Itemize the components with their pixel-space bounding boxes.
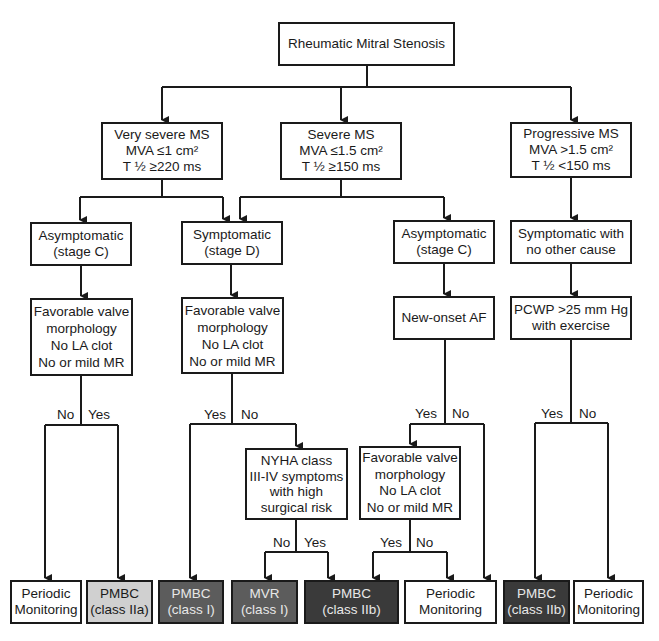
outcome-line: Monitoring xyxy=(14,602,77,618)
node-line: Asymptomatic xyxy=(402,226,487,242)
branch-label-yes: Yes xyxy=(415,407,437,421)
node-line: NYHA class xyxy=(261,453,332,469)
node-line: Favorable valve xyxy=(185,302,280,319)
node-line: surgical risk xyxy=(261,500,332,516)
outcome-line: (class IIb) xyxy=(322,602,381,618)
node-asymptomatic-stage-c-left: Asymptomatic (stage C) xyxy=(30,222,132,266)
branch-label-no: No xyxy=(579,407,596,421)
outcome-line: (class I) xyxy=(167,602,214,618)
node-line: Severe MS xyxy=(308,127,375,143)
node-line: No LA clot xyxy=(202,336,264,353)
outcome-line: Periodic xyxy=(584,586,633,602)
node-line: Asymptomatic xyxy=(39,228,124,244)
node-line: T ½ ≥150 ms xyxy=(302,159,380,175)
node-line: Progressive MS xyxy=(523,126,618,142)
node-favorable-valve-middle: Favorable valve morphology No LA clot No… xyxy=(181,297,284,374)
outcome-line: PMBC xyxy=(332,586,371,602)
node-line: PCWP >25 mm Hg xyxy=(514,302,628,318)
branch-label-yes: Yes xyxy=(304,536,326,550)
node-line: with high xyxy=(270,484,323,500)
node-line: with exercise xyxy=(532,318,610,334)
outcome-periodic-monitoring: Periodic Monitoring xyxy=(10,580,82,624)
branch-label-yes: Yes xyxy=(204,408,226,422)
node-line: No or mild MR xyxy=(189,353,275,370)
node-line: Favorable valve xyxy=(362,450,457,467)
outcome-periodic-monitoring: Periodic Monitoring xyxy=(404,580,497,624)
root-title: Rheumatic Mitral Stenosis xyxy=(288,36,445,52)
node-line: No or mild MR xyxy=(38,354,124,371)
node-symptomatic-no-other-cause: Symptomatic with no other cause xyxy=(510,220,632,264)
branch-label-yes: Yes xyxy=(88,408,110,422)
outcome-line: PMBC xyxy=(517,586,556,602)
branch-label-no: No xyxy=(241,408,258,422)
node-asymptomatic-stage-c-right: Asymptomatic (stage C) xyxy=(393,220,495,264)
outcome-pmbc-class-iib: PMBC (class IIb) xyxy=(503,580,570,624)
outcome-line: Periodic xyxy=(22,586,71,602)
node-line: T ½ <150 ms xyxy=(532,158,611,174)
outcome-line: Periodic xyxy=(426,586,475,602)
node-line: (stage C) xyxy=(416,242,472,258)
branch-label-no: No xyxy=(57,408,74,422)
outcome-line: PMBC xyxy=(100,586,139,602)
node-line: Favorable valve xyxy=(34,303,129,320)
branch-label-yes: Yes xyxy=(541,407,563,421)
node-line: T ½ ≥220 ms xyxy=(123,159,201,175)
outcome-pmbc-class-iia: PMBC (class IIa) xyxy=(86,580,153,624)
node-severe-ms: Severe MS MVA ≤1.5 cm² T ½ ≥150 ms xyxy=(280,122,402,180)
outcome-line: (class I) xyxy=(241,602,288,618)
node-line: MVA >1.5 cm² xyxy=(529,142,613,158)
node-progressive-ms: Progressive MS MVA >1.5 cm² T ½ <150 ms xyxy=(510,122,632,178)
branch-label-no: No xyxy=(273,536,290,550)
outcome-periodic-monitoring: Periodic Monitoring xyxy=(573,580,644,624)
node-line: No LA clot xyxy=(379,483,441,500)
node-line: no other cause xyxy=(526,242,615,258)
outcome-pmbc-class-i: PMBC (class I) xyxy=(158,580,224,624)
outcome-line: (class IIa) xyxy=(90,602,149,618)
node-very-severe-ms: Very severe MS MVA ≤1 cm² T ½ ≥220 ms xyxy=(101,122,223,180)
node-symptomatic-stage-d: Symptomatic (stage D) xyxy=(181,221,283,265)
node-line: morphology xyxy=(46,320,117,337)
node-line: III-IV symptoms xyxy=(250,469,344,485)
branch-label-no: No xyxy=(452,407,469,421)
node-line: morphology xyxy=(197,319,268,336)
node-line: (stage C) xyxy=(53,244,109,260)
outcome-line: PMBC xyxy=(171,586,210,602)
branch-label-yes: Yes xyxy=(380,536,402,550)
node-favorable-valve-left: Favorable valve morphology No LA clot No… xyxy=(30,298,133,376)
root-node-rheumatic-ms: Rheumatic Mitral Stenosis xyxy=(278,22,455,66)
outcome-line: MVR xyxy=(250,586,280,602)
outcome-line: Monitoring xyxy=(419,602,482,618)
node-line: Symptomatic with xyxy=(518,226,624,242)
node-line: MVA ≤1 cm² xyxy=(126,143,198,159)
outcome-line: Monitoring xyxy=(577,602,640,618)
node-line: (stage D) xyxy=(204,243,260,259)
node-line: morphology xyxy=(375,467,446,484)
branch-label-no: No xyxy=(416,536,433,550)
node-nyha-high-surgical-risk: NYHA class III-IV symptoms with high sur… xyxy=(245,448,348,520)
node-line: MVA ≤1.5 cm² xyxy=(299,143,383,159)
node-line: New-onset AF xyxy=(402,310,487,326)
node-pcwp-exercise: PCWP >25 mm Hg with exercise xyxy=(510,296,632,340)
node-line: Very severe MS xyxy=(114,127,209,143)
node-new-onset-af: New-onset AF xyxy=(393,296,495,340)
outcome-pmbc-class-iib: PMBC (class IIb) xyxy=(304,580,399,624)
node-favorable-valve-right: Favorable valve morphology No LA clot No… xyxy=(359,446,461,520)
outcome-line: (class IIb) xyxy=(507,602,566,618)
node-line: No LA clot xyxy=(51,337,113,354)
node-line: No or mild MR xyxy=(367,500,453,517)
node-line: Symptomatic xyxy=(193,227,271,243)
outcome-mvr-class-i: MVR (class I) xyxy=(231,580,298,624)
